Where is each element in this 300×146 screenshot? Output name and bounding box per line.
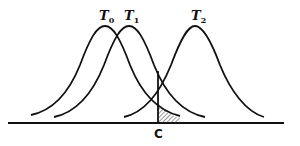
label-t0-text: T [99, 8, 109, 23]
label-t2-subscript: 2 [201, 15, 207, 25]
shaded-tail-region [158, 103, 180, 123]
label-t1-subscript: 1 [134, 15, 140, 25]
curve-t2 [124, 26, 264, 117]
label-t0-subscript: 0 [109, 15, 115, 25]
label-t0: T0 [99, 9, 114, 24]
distribution-diagram [0, 0, 300, 146]
label-criterion-c: C [154, 128, 163, 140]
label-t1-text: T [124, 8, 134, 23]
label-t2: T2 [191, 9, 206, 24]
label-t2-text: T [191, 8, 201, 23]
label-t1: T1 [124, 9, 139, 24]
